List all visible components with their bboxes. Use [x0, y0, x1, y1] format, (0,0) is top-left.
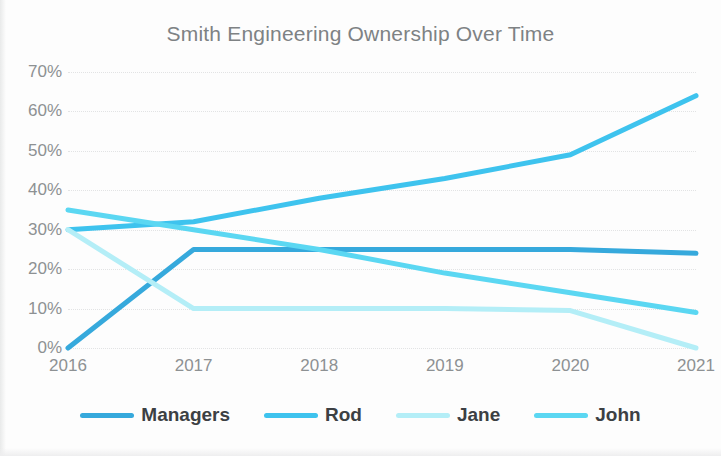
legend-swatch-icon: [264, 413, 318, 418]
y-tick-label: 30%: [28, 220, 62, 240]
paper-edge-left-decoration: [0, 0, 6, 456]
x-tick-label: 2016: [49, 356, 87, 376]
x-tick-label: 2020: [551, 356, 589, 376]
legend-item-john[interactable]: John: [534, 404, 640, 426]
x-tick-label: 2017: [175, 356, 213, 376]
legend-swatch-icon: [396, 413, 450, 418]
x-tick-label: 2018: [300, 356, 338, 376]
series-line-john: [68, 210, 696, 313]
legend-label: Managers: [141, 404, 230, 426]
plot-area: [68, 72, 696, 348]
y-tick-label: 50%: [28, 141, 62, 161]
y-tick-label: 20%: [28, 259, 62, 279]
chart-title: Smith Engineering Ownership Over Time: [0, 22, 721, 46]
chart-screenshot: Smith Engineering Ownership Over Time 0%…: [0, 0, 721, 456]
legend-label: John: [595, 404, 640, 426]
legend-label: Jane: [457, 404, 500, 426]
legend-item-rod[interactable]: Rod: [264, 404, 362, 426]
x-tick-label: 2019: [426, 356, 464, 376]
y-tick-label: 60%: [28, 101, 62, 121]
chart-legend: ManagersRodJaneJohn: [0, 404, 721, 426]
y-tick-label: 0%: [37, 338, 62, 358]
paper-edge-bottom-decoration: [0, 448, 721, 456]
legend-swatch-icon: [534, 413, 588, 418]
series-lines: [68, 72, 696, 348]
legend-item-jane[interactable]: Jane: [396, 404, 500, 426]
x-axis: 201620172018201920202021: [68, 356, 696, 382]
legend-item-managers[interactable]: Managers: [80, 404, 230, 426]
y-axis: 0%10%20%30%40%50%60%70%: [8, 72, 62, 348]
legend-label: Rod: [325, 404, 362, 426]
legend-swatch-icon: [80, 413, 134, 418]
y-tick-label: 10%: [28, 299, 62, 319]
y-tick-label: 70%: [28, 62, 62, 82]
gridline: [68, 348, 696, 350]
x-tick-label: 2021: [677, 356, 715, 376]
y-tick-label: 40%: [28, 180, 62, 200]
series-line-rod: [68, 96, 696, 230]
